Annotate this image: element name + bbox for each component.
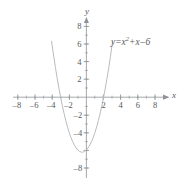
graph-figure: –8 –6 –4 –2 2 4 6 8 8 6 4 2 –2 –4 –8 x y… — [0, 0, 184, 186]
y-axis-arrowhead — [84, 17, 89, 23]
y-tick-label--8: –8 — [74, 164, 83, 173]
x-tick-label-8: 8 — [153, 101, 157, 110]
y-tick-label--4: –4 — [74, 129, 83, 138]
x-tick-label--2: –2 — [64, 101, 73, 110]
equation-var2: x — [135, 37, 139, 47]
y-tick-label-8: 8 — [77, 22, 81, 31]
x-tick-label--4: –4 — [47, 101, 56, 110]
x-tick-label-2: 2 — [101, 101, 105, 110]
y-tick-label--2: –2 — [74, 111, 83, 120]
x-tick-label--8: –8 — [13, 101, 22, 110]
x-axis-arrowhead — [163, 95, 170, 100]
equation-annotation: y=x2+x–6 — [111, 38, 150, 48]
x-tick-label--6: –6 — [30, 101, 39, 110]
y-axis-label: y — [85, 7, 89, 16]
y-tick-label-4: 4 — [77, 58, 81, 67]
equation-constant: 6 — [145, 37, 150, 47]
y-tick-label-2: 2 — [77, 75, 81, 84]
plot-canvas — [0, 0, 184, 186]
y-tick-label-6: 6 — [77, 40, 81, 49]
x-tick-label-6: 6 — [136, 101, 140, 110]
x-tick-label-4: 4 — [119, 101, 123, 110]
x-axis-label: x — [172, 91, 176, 100]
